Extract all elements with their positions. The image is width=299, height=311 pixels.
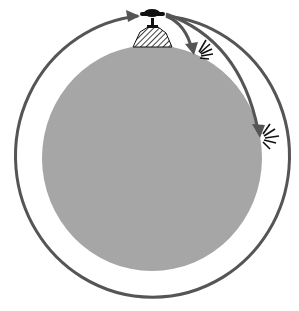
earth <box>42 45 262 271</box>
newton-cannonball-diagram: Newton's cannonball <box>0 0 299 311</box>
mountain <box>133 27 172 47</box>
arrowhead-icon <box>126 10 140 22</box>
impact-burst-icon <box>199 40 213 59</box>
cannon-icon <box>140 9 165 28</box>
impact-burst-icon <box>263 124 279 149</box>
